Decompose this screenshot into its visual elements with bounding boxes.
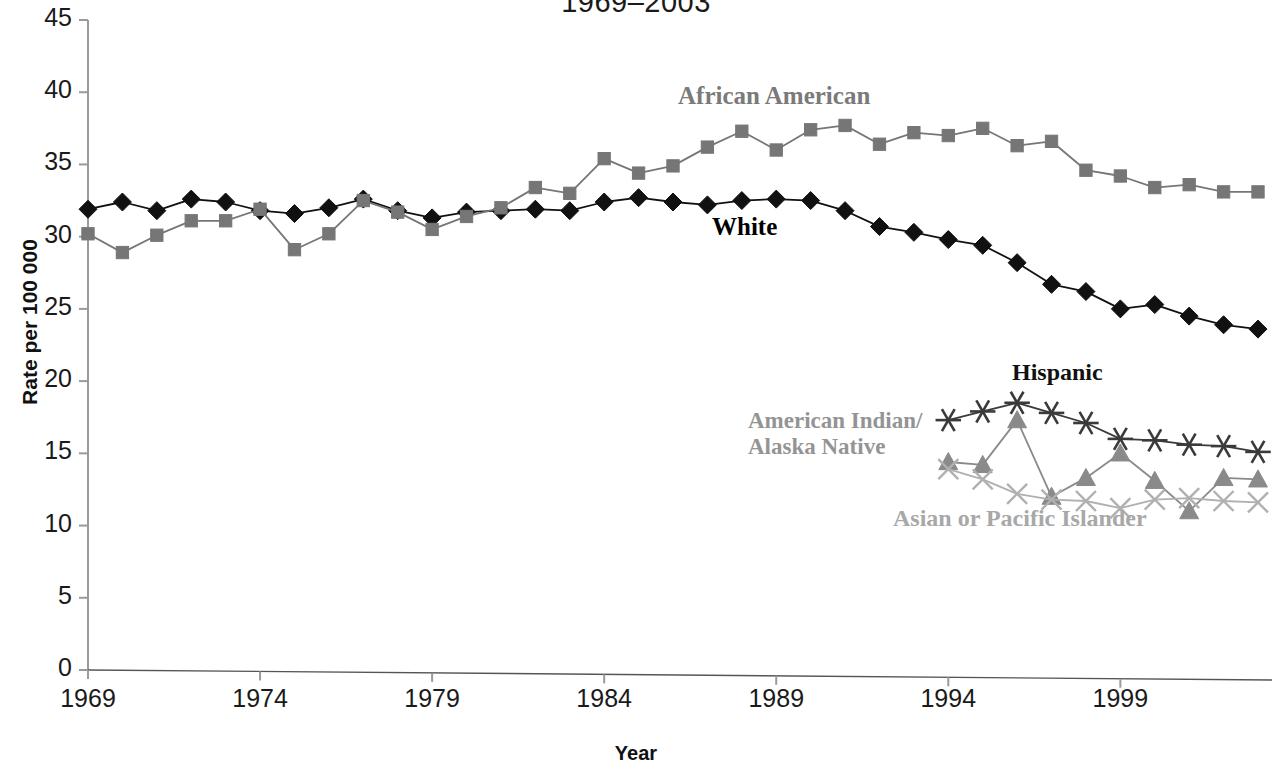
series-hispanic	[936, 392, 1271, 463]
series-layer	[79, 119, 1271, 518]
series-label-african-american: African American	[678, 82, 870, 110]
axis-tick-marks	[79, 20, 1120, 688]
series-label-aian-line1: American Indian/	[748, 408, 922, 434]
series-label-american-indian-alaska-native: American Indian/ Alaska Native	[748, 408, 922, 460]
series-label-hispanic: Hispanic	[1012, 359, 1103, 386]
chart-root: 1969–2003 Rate per 100 000 Year 05101520…	[0, 0, 1272, 779]
series-african-american	[82, 119, 1264, 258]
axis-lines	[88, 20, 1272, 680]
series-label-white: White	[712, 213, 777, 241]
series-label-asian-or-pacific-islander: Asian or Pacific Islander	[893, 505, 1147, 532]
series-label-aian-line2: Alaska Native	[748, 434, 922, 460]
series-american-indian-alaska-native	[939, 411, 1268, 519]
plot-area	[0, 0, 1272, 779]
